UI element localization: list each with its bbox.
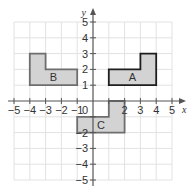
x-tick-label: 2 bbox=[122, 104, 128, 116]
shape-a-label: A bbox=[129, 71, 137, 83]
y-tick-label: 1 bbox=[82, 79, 88, 91]
shape-c-label: C bbox=[97, 119, 105, 131]
x-tick-label: −3 bbox=[39, 104, 52, 116]
y-tick-label: 2 bbox=[82, 63, 88, 75]
coordinate-plane: ABC −5−4−3−2−1234554321−2−3−4−50xy bbox=[0, 0, 188, 189]
coordinate-grid-diagram: ABC −5−4−3−2−1234554321−2−3−4−50xy bbox=[0, 0, 188, 189]
shape-a: A bbox=[109, 54, 156, 86]
x-tick-label: −4 bbox=[24, 104, 37, 116]
y-axis-label: y bbox=[81, 7, 87, 18]
origin-label: 0 bbox=[82, 104, 88, 116]
shape-b-label: B bbox=[50, 71, 57, 83]
x-tick-label: −5 bbox=[8, 104, 21, 116]
y-tick-label: −3 bbox=[75, 142, 88, 154]
x-tick-label: 3 bbox=[137, 104, 143, 116]
x-tick-label: 4 bbox=[153, 104, 159, 116]
x-tick-label: −2 bbox=[55, 104, 68, 116]
y-tick-label: 4 bbox=[82, 32, 88, 44]
y-axis-arrow-icon bbox=[90, 8, 96, 15]
axes-layer bbox=[8, 8, 186, 186]
y-tick-label: 3 bbox=[82, 48, 88, 60]
x-tick-label: 5 bbox=[169, 104, 175, 116]
shape-b: B bbox=[30, 54, 77, 86]
x-axis-label: x bbox=[181, 104, 187, 115]
y-tick-label: −5 bbox=[75, 174, 88, 186]
tick-labels: −5−4−3−2−1234554321−2−3−4−50xy bbox=[8, 7, 187, 186]
y-tick-label: −2 bbox=[75, 127, 88, 139]
y-tick-label: −4 bbox=[75, 158, 88, 170]
